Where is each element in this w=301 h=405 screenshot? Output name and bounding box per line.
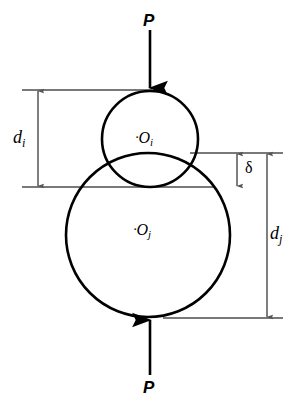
lower-circle-center-letter: O <box>136 221 148 238</box>
force-label-bottom: P <box>143 379 154 396</box>
dimension-label-di: di <box>13 128 25 146</box>
extension-lines <box>22 90 283 318</box>
lower-circle-center-label: ·Oj <box>133 222 151 238</box>
diagram-canvas <box>0 0 301 405</box>
dimension-label-delta: δ <box>245 160 253 176</box>
dimension-label-di-subscript: i <box>22 136 25 150</box>
contact-deformation-diagram: P P ·Oi ·Oj di δ dj <box>0 0 301 405</box>
lower-circle-center-dot: · <box>133 222 136 237</box>
dimension-label-di-letter: d <box>13 127 22 147</box>
force-label-top: P <box>143 12 154 29</box>
circle-group <box>66 91 230 317</box>
lower-circle-center-subscript: j <box>148 228 151 240</box>
upper-circle-center-letter: O <box>138 129 150 146</box>
upper-circle-center-subscript: i <box>150 136 153 148</box>
upper-circle-center-dot: · <box>135 130 138 145</box>
upper-circle-center-label: ·Oi <box>135 130 153 146</box>
dimension-label-dj-subscript: j <box>279 232 282 246</box>
dimension-label-dj: dj <box>270 224 282 242</box>
dimension-label-dj-letter: d <box>270 223 279 243</box>
